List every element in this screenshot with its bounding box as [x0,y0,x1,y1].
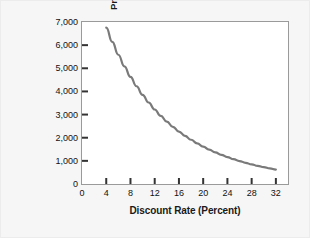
y-tick-label: 3,000 [40,110,78,120]
x-tick-label: 0 [70,188,94,199]
y-axis-tick-labels: 01,0002,0003,0004,0005,0006,0007,000 [40,14,78,186]
y-tick-label: 5,000 [40,63,78,73]
x-tick-label: 24 [215,188,239,199]
y-tick-marks [82,45,88,161]
x-axis-title: Discount Rate (Percent) [81,205,289,216]
x-tick-label: 4 [94,188,118,199]
x-tick-label: 8 [118,188,142,199]
y-tick-label: 7,000 [40,17,78,27]
x-tick-marks [106,178,276,184]
y-tick-label: 6,000 [40,40,78,50]
plot-area [81,21,289,185]
y-tick-label: 4,000 [40,86,78,96]
y-tick-label: 1,000 [40,156,78,166]
y-axis-title: Present Value of $10,000 Payment to Be R… [9,0,39,30]
x-tick-label: 12 [143,188,167,199]
x-tick-label: 20 [191,188,215,199]
plot-svg [82,22,288,184]
x-tick-label: 28 [240,188,264,199]
present-value-curve [106,28,276,170]
chart-figure: Present Value of $10,000 Payment to Be R… [0,0,310,238]
y-tick-label: 2,000 [40,133,78,143]
x-tick-label: 16 [167,188,191,199]
x-tick-label: 32 [264,188,288,199]
x-axis-tick-labels: 048121620242832 [0,188,310,202]
